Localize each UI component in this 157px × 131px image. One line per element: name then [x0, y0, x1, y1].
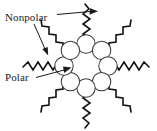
nonpolar-horizontal-arrowhead: [90, 8, 98, 15]
nonpolar-diagonal-leader: [34, 24, 45, 49]
polar-head-group: [55, 35, 117, 97]
polar-label: Polar: [5, 71, 29, 83]
nonpolar-diagonal-arrowhead: [42, 47, 48, 56]
diagram-canvas: Nonpolar Polar: [0, 0, 157, 131]
nonpolar-label: Nonpolar: [5, 11, 48, 23]
micelle-diagram-figure: Nonpolar Polar: [0, 0, 157, 131]
polar-head-nw: [61, 41, 79, 59]
